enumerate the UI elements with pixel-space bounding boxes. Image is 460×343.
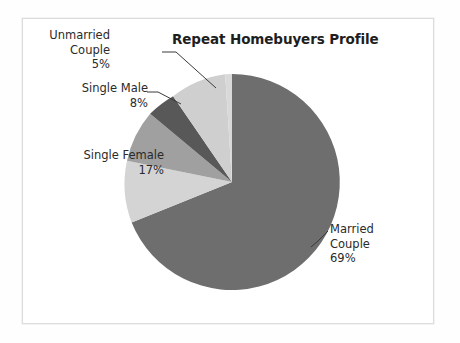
data-label-married-couple-line2: Couple bbox=[330, 237, 374, 252]
data-label-unmarried-couple-line2: Couple bbox=[49, 43, 110, 58]
data-label-single-female-line1: Single Female bbox=[83, 148, 164, 163]
data-label-single-male-line1: Single Male bbox=[82, 81, 148, 96]
data-label-unmarried-couple: Unmarried Couple 5% bbox=[49, 28, 110, 72]
data-label-single-male: Single Male 8% bbox=[82, 81, 148, 110]
chart-title: Repeat Homebuyers Profile bbox=[172, 31, 402, 47]
data-label-married-couple-line1: Married bbox=[330, 222, 374, 237]
data-label-married-couple: Married Couple 69% bbox=[330, 222, 374, 266]
data-label-married-couple-value: 69% bbox=[330, 251, 374, 266]
data-label-single-female: Single Female 17% bbox=[83, 148, 164, 177]
data-label-single-male-value: 8% bbox=[82, 96, 148, 111]
data-label-single-female-value: 17% bbox=[83, 163, 164, 178]
data-label-unmarried-couple-line1: Unmarried bbox=[49, 28, 110, 43]
data-label-unmarried-couple-value: 5% bbox=[49, 57, 110, 72]
scanned-page: Repeat Homebuyers Profile Unmarried Coup… bbox=[0, 0, 460, 343]
